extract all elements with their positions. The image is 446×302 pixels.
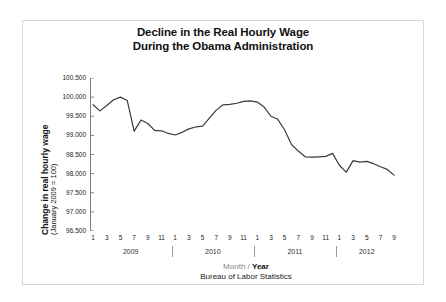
y-axis-tick-label: 97.000 (50, 208, 86, 215)
y-axis-tick-label: 98.500 (50, 151, 86, 158)
x-axis-tick-label: 5 (196, 234, 210, 241)
x-axis-tick-label: 1 (250, 234, 264, 241)
x-axis-tick-label: 7 (373, 234, 387, 241)
plot-svg (90, 78, 402, 231)
x-axis-tick-label: 5 (278, 234, 292, 241)
x-axis-tick-label: 5 (360, 234, 374, 241)
y-axis-tick-label: 97.500 (50, 189, 86, 196)
y-axis-tick-label: 100.000 (50, 93, 86, 100)
x-axis-tick-labels: 13579111357911135791113579 (90, 234, 402, 246)
source-label: Bureau of Labor Statistics (90, 272, 402, 282)
x-axis-tick-label: 11 (319, 234, 333, 241)
year-separator (254, 246, 255, 257)
y-axis-tick-label: 98.000 (50, 170, 86, 177)
y-axis-title: Change in real hourly wage (January 2009… (29, 75, 49, 235)
x-axis-tick-label: 9 (305, 234, 319, 241)
x-axis-year-label: 2010 (193, 248, 233, 255)
x-axis-tick-label: 1 (332, 234, 346, 241)
x-axis-tick-label: 7 (127, 234, 141, 241)
x-axis-tick-label: 1 (168, 234, 182, 241)
chart-title-line-1: Decline in the Real Hourly Wage (22, 25, 424, 39)
x-axis-caption: Month / Year Bureau of Labor Statistics (90, 262, 402, 282)
y-axis-tick-label: 96.500 (50, 227, 86, 234)
year-separator (172, 246, 173, 257)
x-axis-tick-label: 9 (141, 234, 155, 241)
x-axis-tick-label: 3 (264, 234, 278, 241)
x-axis-year-label: 2012 (347, 248, 387, 255)
x-axis-tick-label: 11 (237, 234, 251, 241)
x-axis-tick-label: 7 (209, 234, 223, 241)
x-axis-tick-label: 3 (100, 234, 114, 241)
slash-separator: / (245, 262, 252, 271)
chart-figure: Decline in the Real Hourly Wage During t… (0, 0, 446, 302)
chart-title-line-2: During the Obama Administration (22, 39, 424, 53)
plot-area (90, 78, 402, 231)
x-axis-year-label: 2009 (111, 248, 151, 255)
x-axis-year-label: 2011 (275, 248, 315, 255)
x-axis-tick-label: 9 (223, 234, 237, 241)
x-axis-tick-label: 3 (182, 234, 196, 241)
x-axis-tick-label: 5 (113, 234, 127, 241)
y-axis-tick-label: 99.500 (50, 112, 86, 119)
page-title: Decline in the Real Hourly Wage During t… (22, 25, 424, 53)
year-word: Year (252, 262, 269, 271)
x-axis-tick-label: 7 (291, 234, 305, 241)
y-axis-tick-labels: 100.500100.00099.50099.00098.50098.00097… (48, 78, 86, 231)
x-axis-tick-label: 1 (86, 234, 100, 241)
x-axis-tick-label: 11 (155, 234, 169, 241)
month-year-label: Month / Year (90, 262, 402, 272)
x-axis-tick-label: 9 (387, 234, 401, 241)
month-word: Month (223, 262, 245, 271)
x-axis-tick-label: 3 (346, 234, 360, 241)
year-separator (336, 246, 337, 257)
y-axis-tick-label: 100.500 (50, 74, 86, 81)
data-line-series-0 (93, 97, 394, 175)
x-axis-year-labels: 2009201020112012 (90, 247, 402, 261)
y-axis-tick-label: 99.000 (50, 131, 86, 138)
